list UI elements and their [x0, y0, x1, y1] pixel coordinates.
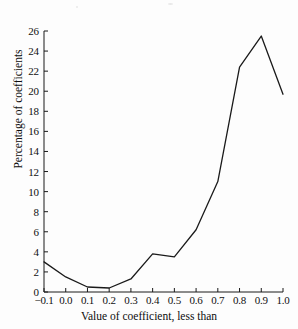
- y-tick-label: 2: [34, 266, 39, 278]
- x-tick-label: 0.5: [168, 294, 181, 306]
- x-tick-label: 0.0: [59, 294, 72, 306]
- x-tick-marks: [44, 288, 283, 292]
- chart-figure: 02468101214161820222426 −0.10.00.10.20.3…: [0, 0, 298, 329]
- y-axis-title: Percentage of coefficients: [12, 49, 24, 168]
- data-series-line: [44, 36, 283, 288]
- x-axis-title: Value of coefficient, less than: [0, 310, 298, 322]
- y-tick-label: 26: [28, 25, 39, 37]
- y-tick-label: 8: [34, 206, 39, 218]
- x-tick-label: 0.7: [211, 294, 224, 306]
- y-tick-label: 20: [28, 85, 39, 97]
- x-tick-label: 0.4: [146, 294, 159, 306]
- x-tick-label: 0.9: [255, 294, 268, 306]
- x-tick-label: −0.1: [34, 294, 53, 306]
- x-tick-label: 1.0: [276, 294, 289, 306]
- y-tick-label: 10: [28, 186, 39, 198]
- axis-lines: [44, 31, 283, 292]
- y-tick-label: 14: [28, 145, 39, 157]
- y-tick-label: 22: [28, 65, 39, 77]
- y-axis-title-wrapper: Percentage of coefficients: [8, 29, 26, 189]
- y-tick-label: 6: [34, 226, 39, 238]
- y-tick-label: 12: [28, 166, 39, 178]
- y-tick-marks: [44, 31, 48, 292]
- x-tick-label: 0.1: [81, 294, 94, 306]
- y-tick-label: 18: [28, 105, 39, 117]
- x-tick-label: 0.6: [190, 294, 203, 306]
- y-tick-label: 24: [28, 45, 39, 57]
- chart-canvas: [0, 0, 298, 329]
- x-tick-label: 0.2: [103, 294, 116, 306]
- y-tick-label: 16: [28, 125, 39, 137]
- x-axis-tick-labels: −0.10.00.10.20.30.40.50.60.70.80.91.0: [0, 294, 298, 310]
- y-tick-label: 4: [34, 246, 39, 258]
- x-tick-label: 0.3: [124, 294, 137, 306]
- x-tick-label: 0.8: [233, 294, 246, 306]
